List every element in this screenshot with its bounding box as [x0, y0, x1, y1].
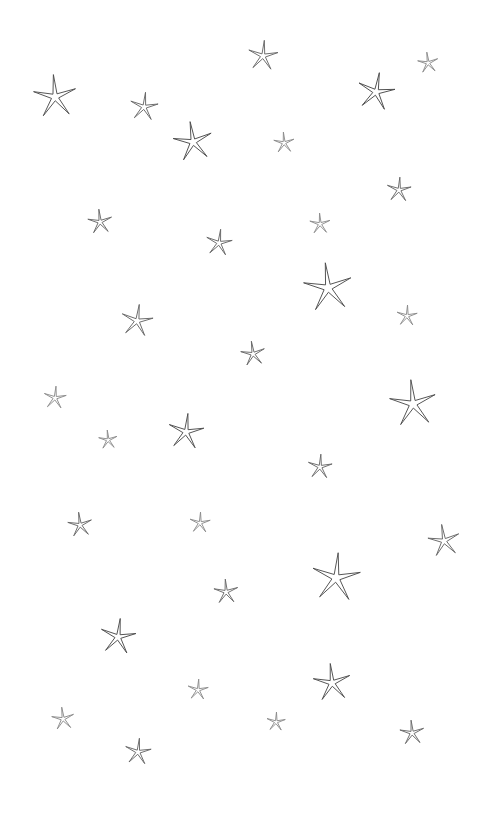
star-glyph: [86, 208, 114, 236]
star-glyph: [416, 51, 440, 75]
star-icon: [30, 72, 79, 121]
star-icon: [246, 39, 281, 74]
star-icon: [299, 259, 356, 316]
star-glyph: [42, 385, 68, 411]
star-icon: [239, 340, 268, 369]
star-icon: [123, 737, 154, 768]
star-pattern-canvas: [0, 0, 489, 816]
star-glyph: [398, 719, 426, 747]
star-icon: [128, 91, 161, 124]
star-glyph: [425, 522, 463, 560]
star-icon: [265, 711, 286, 732]
star-icon: [97, 616, 139, 658]
star-glyph: [265, 711, 286, 732]
star-icon: [386, 377, 440, 431]
star-glyph: [309, 213, 332, 236]
star-icon: [203, 227, 234, 258]
star-glyph: [395, 304, 418, 327]
star-glyph: [246, 39, 281, 74]
star-icon: [186, 678, 209, 701]
star-glyph: [123, 737, 154, 768]
star-glyph: [188, 511, 211, 534]
star-icon: [212, 578, 239, 605]
star-icon: [310, 661, 353, 704]
star-glyph: [97, 616, 139, 658]
star-icon: [398, 719, 426, 747]
star-icon: [395, 304, 418, 327]
star-icon: [353, 69, 399, 115]
star-icon: [308, 550, 364, 606]
star-glyph: [169, 118, 216, 165]
star-glyph: [385, 176, 413, 204]
star-icon: [66, 511, 95, 540]
star-icon: [188, 511, 211, 534]
star-icon: [272, 131, 295, 154]
star-icon: [416, 51, 440, 75]
star-icon: [86, 208, 114, 236]
star-glyph: [353, 69, 399, 115]
star-glyph: [306, 453, 334, 481]
star-glyph: [299, 259, 356, 316]
star-icon: [306, 453, 334, 481]
star-icon: [165, 411, 207, 453]
star-glyph: [165, 411, 207, 453]
star-icon: [118, 302, 156, 340]
star-glyph: [66, 511, 95, 540]
star-icon: [97, 429, 118, 450]
star-glyph: [272, 131, 295, 154]
star-icon: [42, 385, 68, 411]
star-icon: [309, 213, 332, 236]
star-glyph: [308, 550, 364, 606]
star-glyph: [50, 706, 76, 732]
star-glyph: [386, 377, 440, 431]
star-glyph: [30, 72, 79, 121]
star-glyph: [118, 302, 156, 340]
star-glyph: [97, 429, 118, 450]
star-glyph: [310, 661, 353, 704]
star-glyph: [186, 678, 209, 701]
star-icon: [169, 118, 216, 165]
star-glyph: [128, 91, 161, 124]
star-icon: [50, 706, 76, 732]
star-icon: [425, 522, 463, 560]
star-glyph: [203, 227, 234, 258]
star-glyph: [212, 578, 239, 605]
star-glyph: [239, 340, 268, 369]
star-icon: [385, 176, 413, 204]
